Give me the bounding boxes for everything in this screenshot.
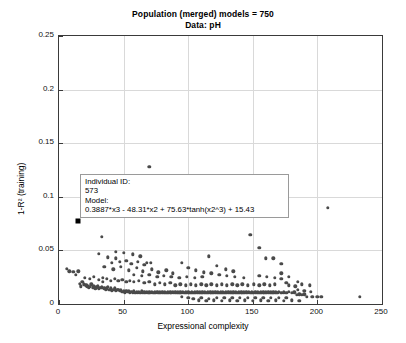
data-point[interactable] [163, 282, 166, 285]
data-point[interactable] [131, 252, 134, 255]
data-point[interactable] [232, 270, 235, 273]
data-point[interactable] [224, 267, 227, 270]
data-point[interactable] [249, 233, 252, 236]
data-point[interactable] [141, 270, 144, 273]
data-point[interactable] [148, 280, 151, 283]
data-point[interactable] [106, 256, 109, 259]
data-point[interactable] [251, 299, 254, 302]
data-point[interactable] [114, 257, 117, 260]
data-point[interactable] [212, 299, 215, 302]
data-point[interactable] [170, 275, 173, 278]
data-point[interactable] [311, 295, 314, 298]
data-point[interactable] [290, 299, 293, 302]
data-point[interactable] [186, 296, 189, 299]
data-point[interactable] [268, 284, 271, 287]
data-point[interactable] [236, 299, 239, 302]
data-point[interactable] [316, 295, 319, 298]
data-point[interactable] [150, 267, 153, 270]
data-point[interactable] [92, 275, 95, 278]
data-point[interactable] [112, 267, 115, 270]
data-point[interactable] [119, 265, 122, 268]
data-point[interactable] [114, 250, 117, 253]
data-point[interactable] [155, 275, 158, 278]
data-point[interactable] [241, 282, 244, 285]
data-point[interactable] [201, 275, 204, 278]
data-point[interactable] [177, 276, 180, 279]
data-point[interactable] [136, 260, 139, 263]
data-point[interactable] [300, 282, 303, 285]
data-point[interactable] [97, 252, 100, 255]
data-point[interactable] [252, 282, 255, 285]
data-point[interactable] [246, 284, 249, 287]
data-point[interactable] [148, 273, 151, 276]
data-point[interactable] [210, 282, 213, 285]
data-point[interactable] [113, 277, 116, 280]
data-point[interactable] [74, 273, 77, 276]
data-point[interactable] [258, 284, 261, 287]
data-point[interactable] [153, 282, 156, 285]
data-point[interactable] [97, 278, 100, 281]
data-point[interactable] [132, 280, 135, 283]
data-point[interactable] [246, 296, 249, 299]
data-point[interactable] [192, 297, 195, 300]
data-point[interactable] [101, 276, 104, 279]
data-point[interactable] [296, 288, 299, 291]
data-point[interactable] [218, 273, 221, 276]
data-point[interactable] [199, 282, 202, 285]
data-point[interactable] [68, 270, 71, 273]
data-point[interactable] [274, 299, 277, 302]
data-point[interactable] [148, 165, 151, 168]
data-point[interactable] [298, 299, 301, 302]
data-point[interactable] [223, 296, 226, 299]
data-point[interactable] [320, 295, 323, 298]
data-point[interactable] [309, 290, 312, 293]
data-point[interactable] [236, 284, 239, 287]
data-point[interactable] [267, 299, 270, 302]
data-point[interactable] [285, 296, 288, 299]
data-point[interactable] [258, 246, 261, 249]
data-point[interactable] [193, 276, 196, 279]
data-point[interactable] [202, 271, 205, 274]
data-point[interactable] [130, 262, 133, 265]
data-point[interactable] [287, 284, 290, 287]
data-point[interactable] [143, 281, 146, 284]
data-point[interactable] [280, 277, 283, 280]
data-point[interactable] [305, 295, 308, 298]
data-point[interactable] [303, 289, 306, 292]
data-point[interactable] [230, 282, 233, 285]
data-point[interactable] [194, 284, 197, 287]
data-point[interactable] [215, 284, 218, 287]
data-point[interactable] [110, 261, 113, 264]
data-point[interactable] [263, 282, 266, 285]
data-point[interactable] [199, 296, 202, 299]
data-point[interactable] [140, 274, 143, 277]
data-point[interactable] [265, 275, 268, 278]
data-point[interactable] [242, 276, 245, 279]
data-point[interactable] [194, 269, 197, 272]
data-point[interactable] [358, 295, 361, 298]
data-point[interactable] [189, 282, 192, 285]
data-point[interactable] [210, 272, 213, 275]
data-point[interactable] [132, 273, 135, 276]
data-point[interactable] [207, 255, 210, 258]
data-point[interactable] [273, 276, 276, 279]
data-point[interactable] [238, 296, 241, 299]
data-point[interactable] [282, 299, 285, 302]
data-point[interactable] [269, 296, 272, 299]
data-point[interactable] [118, 260, 121, 263]
data-point[interactable] [128, 279, 131, 282]
data-point[interactable] [277, 296, 280, 299]
data-point[interactable] [308, 284, 311, 287]
data-point[interactable] [186, 266, 189, 269]
data-point[interactable] [205, 284, 208, 287]
data-point[interactable] [180, 261, 183, 264]
data-point[interactable] [197, 299, 200, 302]
data-point[interactable] [145, 261, 148, 264]
data-point[interactable] [122, 251, 125, 254]
data-point[interactable] [220, 282, 223, 285]
data-point[interactable] [207, 297, 210, 300]
data-point[interactable] [124, 280, 127, 283]
data-point[interactable] [100, 235, 103, 238]
plot-area[interactable] [58, 35, 383, 305]
data-point[interactable] [184, 284, 187, 287]
